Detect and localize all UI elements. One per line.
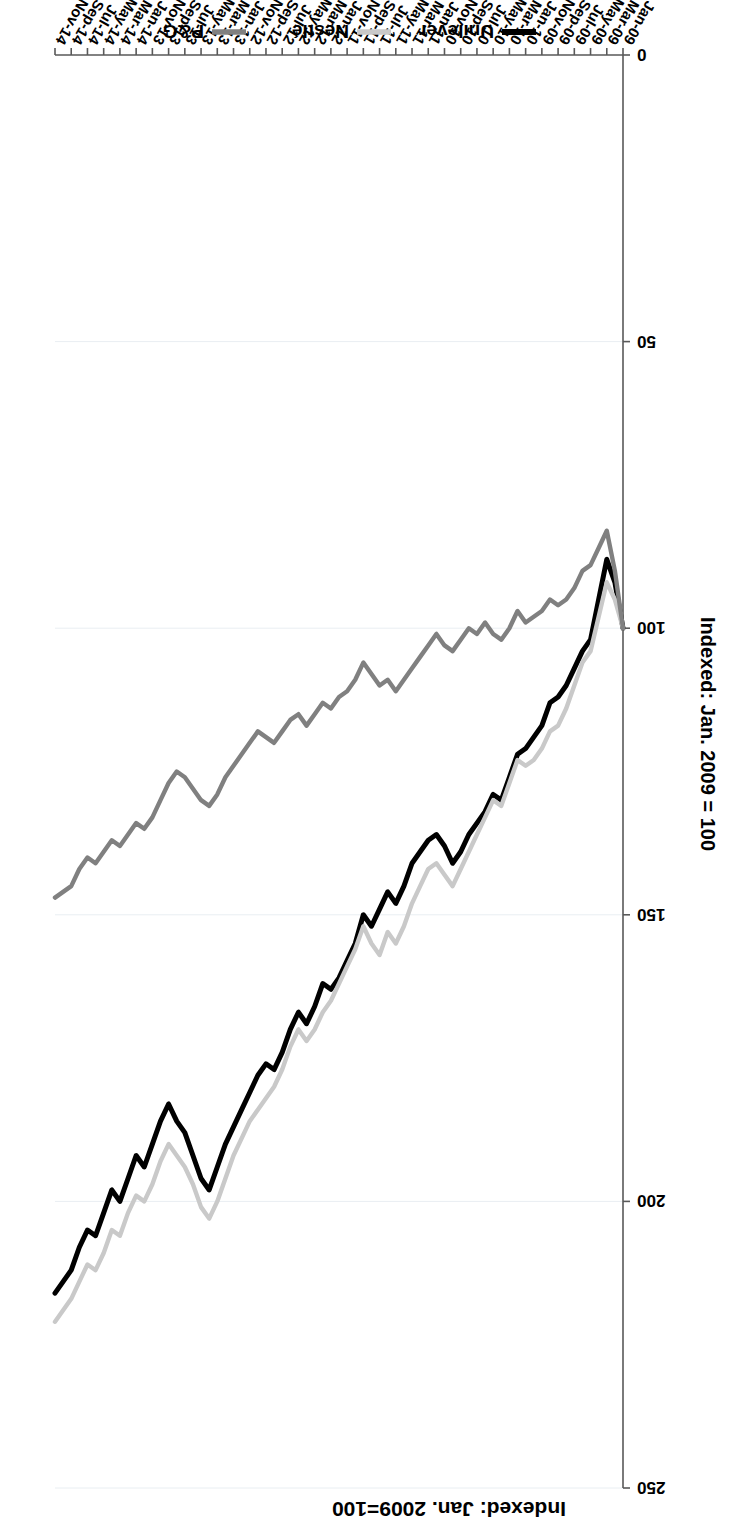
y-tick-labels-group: 050100150200250	[637, 45, 665, 1497]
y-tick-label: 100	[637, 618, 665, 637]
legend-label-pg[interactable]: P&G	[163, 21, 204, 42]
y-tick-label: 150	[637, 905, 665, 924]
y-tick-label: 0	[637, 45, 646, 64]
legend-label-unilever[interactable]: Unilever	[418, 21, 494, 42]
y-axis-title: Indexed: Jan. 2009 = 100	[697, 617, 719, 851]
series-line-nestl	[55, 582, 623, 1321]
y-tick-label: 200	[637, 1191, 665, 1210]
series-line-pg	[55, 531, 623, 898]
chart-page: Jan-09Mar-09May-09Jul-09Sep-09Nov-09Jan-…	[0, 0, 749, 1524]
y-tick-label: 50	[637, 332, 656, 351]
x-tick-labels-group: Jan-09Mar-09May-09Jul-09Sep-09Nov-09Jan-…	[52, 0, 659, 49]
axes-group	[55, 48, 630, 1488]
series-line-unilever	[55, 559, 623, 1293]
line-chart-canvas: Jan-09Mar-09May-09Jul-09Sep-09Nov-09Jan-…	[0, 0, 749, 1524]
chart-figure: Jan-09Mar-09May-09Jul-09Sep-09Nov-09Jan-…	[0, 0, 749, 1524]
y-tick-label: 250	[637, 1478, 665, 1497]
legend-label-nestl[interactable]: Nestlé	[292, 21, 349, 42]
chart-title: Indexed: Jan. 2009=100	[332, 1498, 566, 1521]
gridlines-group	[55, 342, 623, 1488]
series-group	[55, 531, 623, 1322]
